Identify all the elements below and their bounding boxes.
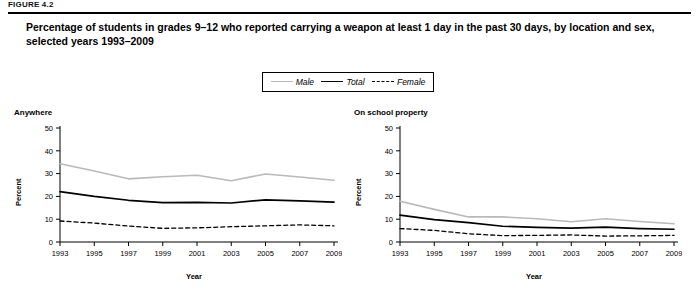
svg-text:2001: 2001 — [529, 249, 546, 258]
svg-text:1993: 1993 — [52, 249, 69, 258]
legend-entry-male: Male — [271, 77, 314, 87]
legend-line-total-icon — [321, 79, 343, 85]
legend-entry-total: Total — [321, 77, 364, 87]
header-divider — [8, 12, 691, 14]
svg-text:1997: 1997 — [120, 249, 137, 258]
legend-line-female-icon — [372, 79, 394, 85]
chart-legend: Male Total Female — [262, 72, 434, 92]
svg-text:30: 30 — [385, 169, 393, 178]
legend-entry-female: Female — [372, 77, 425, 87]
svg-text:2007: 2007 — [291, 249, 308, 258]
svg-text:2005: 2005 — [257, 249, 274, 258]
plot-area-on-school-property: Percent 01020304050199319951997199920012… — [352, 120, 682, 286]
legend-line-male-icon — [271, 79, 293, 85]
legend-label-male: Male — [296, 77, 314, 87]
legend-label-female: Female — [397, 77, 425, 87]
svg-text:10: 10 — [385, 215, 393, 224]
legend-label-total: Total — [346, 77, 364, 87]
figure-number-label: FIGURE 4.2 — [8, 0, 54, 9]
svg-text:2005: 2005 — [597, 249, 614, 258]
figure-title: Percentage of students in grades 9–12 wh… — [26, 20, 666, 48]
svg-text:20: 20 — [45, 192, 53, 201]
plot-area-anywhere: Percent 01020304050199319951997199920012… — [12, 120, 342, 286]
svg-text:2003: 2003 — [223, 249, 240, 258]
x-axis-title-on-school-property: Year — [352, 272, 682, 281]
svg-text:2009: 2009 — [326, 249, 342, 258]
svg-text:10: 10 — [45, 215, 53, 224]
y-axis-title-on-school-property: Percent — [354, 178, 363, 206]
svg-text:1995: 1995 — [86, 249, 103, 258]
svg-text:1999: 1999 — [154, 249, 171, 258]
line-chart-anywhere: 0102030405019931995199719992001200320052… — [12, 120, 342, 270]
svg-text:1993: 1993 — [392, 249, 409, 258]
figure-page: FIGURE 4.2 Percentage of students in gra… — [0, 0, 699, 293]
svg-text:2007: 2007 — [631, 249, 648, 258]
svg-text:2009: 2009 — [666, 249, 682, 258]
svg-text:50: 50 — [45, 124, 53, 133]
svg-text:20: 20 — [385, 192, 393, 201]
line-chart-on-school-property: 0102030405019931995199719992001200320052… — [352, 120, 682, 270]
svg-text:2001: 2001 — [189, 249, 206, 258]
svg-text:1995: 1995 — [426, 249, 443, 258]
x-axis-title-anywhere: Year — [12, 272, 342, 281]
svg-text:40: 40 — [385, 147, 393, 156]
svg-text:2003: 2003 — [563, 249, 580, 258]
svg-text:1999: 1999 — [494, 249, 511, 258]
panel-anywhere: Anywhere Percent 01020304050199319951997… — [12, 108, 342, 286]
panel-on-school-property: On school property Percent 0102030405019… — [352, 108, 682, 286]
svg-text:50: 50 — [385, 124, 393, 133]
svg-text:0: 0 — [389, 238, 393, 247]
svg-text:1997: 1997 — [460, 249, 477, 258]
svg-text:0: 0 — [49, 238, 53, 247]
svg-text:30: 30 — [45, 169, 53, 178]
panel-title-on-school-property: On school property — [354, 108, 428, 117]
svg-text:40: 40 — [45, 147, 53, 156]
panel-title-anywhere: Anywhere — [14, 108, 52, 117]
y-axis-title-anywhere: Percent — [14, 178, 23, 206]
